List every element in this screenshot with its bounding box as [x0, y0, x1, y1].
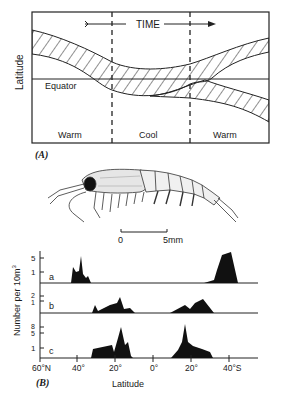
time-label: TIME — [136, 19, 160, 30]
row-b-label: b — [49, 301, 54, 311]
x-tick-40S: 40°S — [223, 363, 242, 373]
row-a-label: a — [49, 272, 54, 282]
x-tick-60N: 60°N — [32, 363, 51, 373]
row-a-south-distribution — [204, 252, 238, 283]
krill-illustration — [48, 169, 238, 222]
row-c-tick-1: 1 — [31, 344, 36, 353]
period-label-cool: Cool — [139, 130, 158, 140]
krill-antennae — [48, 184, 86, 222]
krill-legs — [94, 192, 144, 218]
panel-b-label: (B) — [36, 377, 49, 389]
x-axis-label: Latitude — [112, 379, 144, 389]
period-label-warm-2: Warm — [213, 130, 237, 140]
x-tick-20N: 20° — [109, 363, 122, 373]
figure: TIME Equator Latitude Warm Cool Warm (A) — [0, 0, 281, 399]
row-a-tick-1: 1 — [31, 268, 36, 277]
equator-label: Equator — [45, 81, 77, 91]
y-ticks — [40, 258, 44, 348]
row-c-south-distribution — [171, 324, 213, 358]
scale-end-label: 5mm — [163, 235, 183, 245]
row-b-tick-2: 2 — [31, 292, 35, 299]
arrow-right-icon — [208, 21, 216, 27]
x-tick-0: 0° — [150, 363, 158, 373]
row-a-north-distribution — [71, 256, 91, 283]
row-a-tick-5: 5 — [31, 254, 36, 263]
row-c-label: c — [49, 346, 54, 356]
y-axis-label: Number per 10m3 — [11, 264, 22, 336]
row-b-south-distribution — [170, 299, 214, 313]
row-c-tick-8: 8 — [31, 323, 35, 330]
x-tick-40N: 40° — [72, 363, 85, 373]
panel-b: 5 1 2 1 8 5 1 a b c 60°N 40° 20° 0° 20° … — [11, 251, 258, 389]
y-axis-label-latitude: Latitude — [14, 54, 25, 90]
row-c-tick-5: 5 — [31, 330, 35, 337]
panel-a-label: (A) — [35, 149, 48, 161]
row-b-tick-1: 1 — [31, 299, 35, 306]
panel-a: TIME Equator Latitude Warm Cool Warm (A) — [14, 12, 269, 161]
row-c-north-distribution — [91, 327, 133, 358]
period-label-warm-1: Warm — [58, 130, 82, 140]
scale-bar: 0 5mm — [118, 229, 183, 245]
x-tick-20S: 20° — [185, 363, 198, 373]
row-b-north-distribution — [92, 297, 135, 313]
scale-start-label: 0 — [118, 235, 123, 245]
krill-abdomen — [140, 170, 220, 205]
krill-eye — [84, 177, 96, 191]
krill-telson — [214, 198, 238, 222]
